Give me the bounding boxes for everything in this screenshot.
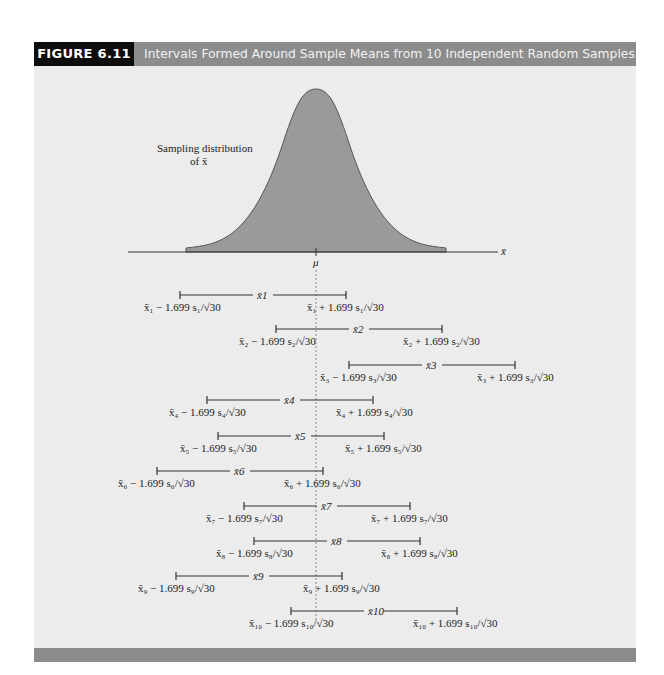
interval-lower-label: x̄₃ − 1.699 s₃/√30 [320,371,397,383]
interval-lower-label: x̄₇ − 1.699 s₇/√30 [206,512,283,524]
interval-upper-label: x̄₇ + 1.699 s₇/√30 [371,512,448,524]
interval-upper-label: x̄₃ + 1.699 s₃/√30 [477,371,554,383]
interval-lower-label: x̄₉ − 1.699 s₉/√30 [138,582,215,594]
interval-lower-label: x̄₄ − 1.699 s₄/√30 [169,406,246,418]
interval-center-label: x̄3 [425,359,437,371]
interval-lower-label: x̄₈ − 1.699 s₈/√30 [216,547,293,559]
interval-upper-label: x̄₆ + 1.699 s₆/√30 [284,477,361,489]
interval-lower-label: x̄₅ − 1.699 s₅/√30 [180,442,257,454]
distribution-label-line2: of x̄ [190,155,208,167]
interval-diagram: x̄ μ Sampling distribution of x̄ x̄1x̄₁ … [0,0,664,675]
interval-upper-label: x̄₅ + 1.699 s₅/√30 [345,442,422,454]
interval-center-label: x̄9 [252,570,264,582]
interval-upper-label: x̄₈ + 1.699 s₈/√30 [381,547,458,559]
distribution-label-line1: Sampling distribution [157,142,253,154]
interval-lower-label: x̄₆ − 1.699 s₆/√30 [118,477,195,489]
interval-row: x̄2x̄₂ − 1.699 s₂/√30x̄₂ + 1.699 s₂/√30 [239,323,480,347]
interval-lower-label: x̄₁ − 1.699 s₁/√30 [144,301,221,313]
interval-row: x̄1x̄₁ − 1.699 s₁/√30x̄₁ + 1.699 s₁/√30 [144,289,384,313]
interval-upper-label: x̄₉ + 1.699 s₉/√30 [303,582,380,594]
interval-center-label: x̄10 [367,605,384,617]
interval-center-label: x̄5 [294,430,306,442]
interval-lower-label: x̄₂ − 1.699 s₂/√30 [239,335,316,347]
interval-upper-label: x̄₁ + 1.699 s₁/√30 [307,301,384,313]
interval-row: x̄7x̄₇ − 1.699 s₇/√30x̄₇ + 1.699 s₇/√30 [206,500,448,524]
interval-row: x̄6x̄₆ − 1.699 s₆/√30x̄₆ + 1.699 s₆/√30 [118,465,361,489]
interval-row: x̄9x̄₉ − 1.699 s₉/√30x̄₉ + 1.699 s₉/√30 [138,570,380,594]
interval-center-label: x̄1 [256,289,267,301]
interval-center-label: x̄7 [320,500,332,512]
interval-center-label: x̄2 [352,323,364,335]
interval-row: x̄3x̄₃ − 1.699 s₃/√30x̄₃ + 1.699 s₃/√30 [320,359,554,383]
mu-label: μ [312,256,319,268]
interval-center-label: x̄6 [233,465,245,477]
interval-row: x̄4x̄₄ − 1.699 s₄/√30x̄₄ + 1.699 s₄/√30 [169,394,413,418]
interval-upper-label: x̄₁₀ + 1.699 s₁₀/√30 [413,617,498,629]
sampling-distribution-curve [186,89,446,252]
interval-row: x̄5x̄₅ − 1.699 s₅/√30x̄₅ + 1.699 s₅/√30 [180,430,422,454]
interval-center-label: x̄8 [330,535,342,547]
x-axis-label: x̄ [500,245,506,257]
interval-group: x̄1x̄₁ − 1.699 s₁/√30x̄₁ + 1.699 s₁/√30x… [118,289,554,629]
interval-upper-label: x̄₂ + 1.699 s₂/√30 [403,335,480,347]
interval-row: x̄10x̄₁₀ − 1.699 s₁₀/√30x̄₁₀ + 1.699 s₁₀… [249,605,498,629]
interval-center-label: x̄4 [283,394,295,406]
interval-lower-label: x̄₁₀ − 1.699 s₁₀/√30 [249,617,334,629]
interval-upper-label: x̄₄ + 1.699 s₄/√30 [336,406,413,418]
interval-row: x̄8x̄₈ − 1.699 s₈/√30x̄₈ + 1.699 s₈/√30 [216,535,458,559]
